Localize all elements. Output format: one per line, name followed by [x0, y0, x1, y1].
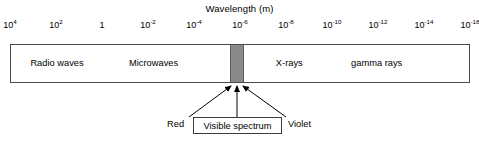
axis-tick-label: 10-6 — [232, 19, 248, 31]
arrow-violet — [243, 86, 286, 117]
axis-title: Wavelength (m) — [0, 3, 479, 14]
label-violet: Violet — [288, 119, 311, 129]
axis-tick-label: 10-4 — [186, 19, 202, 31]
spectrum-bar: Radio wavesMicrowavesX-raysgamma rays — [10, 44, 470, 83]
electromagnetic-spectrum-figure: Wavelength (m) 104102110-210-410-610-810… — [0, 0, 479, 143]
axis-tick-label: 104 — [3, 19, 16, 31]
axis-tick-label: 10-10 — [323, 19, 342, 31]
axis-tick-label: 10-2 — [140, 19, 156, 31]
axis-tick-label: 102 — [49, 19, 62, 31]
visible-spectrum-label: Visible spectrum — [203, 121, 271, 131]
axis-tick-label: 10-8 — [278, 19, 294, 31]
label-red: Red — [167, 119, 184, 129]
axis-tick-label: 10-18 — [461, 19, 479, 31]
band-label: gamma rays — [351, 58, 402, 68]
arrow-red — [189, 86, 231, 117]
band-label: Radio waves — [30, 58, 83, 68]
axis-tick-label: 10-14 — [415, 19, 434, 31]
visible-spectrum-callout-box: Visible spectrum — [193, 117, 282, 134]
axis-tick-label: 10-12 — [369, 19, 388, 31]
band-label: X-rays — [276, 58, 303, 68]
visible-spectrum-band — [230, 45, 244, 82]
axis-tick-labels: 104102110-210-410-610-810-1010-1210-1410… — [10, 19, 470, 36]
band-label: Microwaves — [129, 58, 178, 68]
axis-tick-label: 1 — [99, 19, 104, 31]
